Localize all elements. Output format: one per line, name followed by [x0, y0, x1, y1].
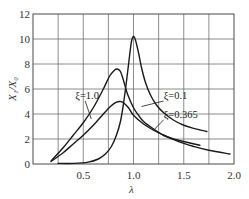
y-tick-label: 10	[19, 33, 31, 45]
x-tick-label: 0.5	[76, 169, 90, 181]
annotation-xi-0-1: ξ=0.1	[164, 90, 188, 102]
curve-xi-1-0	[51, 101, 230, 161]
y-tick-label: 4	[25, 108, 31, 120]
y-tick-label: 8	[25, 58, 31, 70]
y-tick-label: 0	[25, 158, 31, 170]
x-tick-labels: 0.51.01.52.0	[76, 169, 241, 181]
chart: 024681012 0.51.01.52.0 ξ=0.1ξ=0.365ξ=1.0…	[0, 0, 249, 199]
y-axis-label: X₁/X₀	[6, 77, 18, 102]
y-tick-label: 6	[25, 83, 31, 95]
annotation-xi-0-365: ξ=0.365	[164, 109, 198, 121]
x-tick-label: 1.5	[177, 169, 191, 181]
leader-line	[142, 101, 164, 107]
annotation-xi-1-0: ξ=1.0	[75, 90, 99, 102]
x-tick-label: 1.0	[127, 169, 141, 181]
x-tick-label: 2.0	[227, 169, 241, 181]
y-tick-label: 12	[19, 8, 30, 20]
y-tick-label: 2	[25, 133, 31, 145]
x-axis-label: λ	[128, 183, 134, 195]
y-tick-labels: 024681012	[19, 8, 31, 170]
